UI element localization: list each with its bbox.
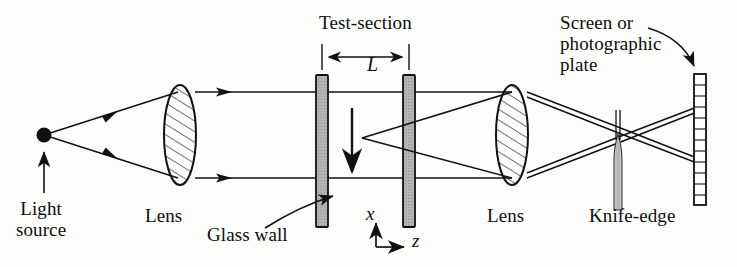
glass-wall-left <box>316 75 328 227</box>
lens-right <box>496 85 528 185</box>
source-ray-arrowheads <box>102 111 118 159</box>
collimated-beam-arrowheads <box>216 87 232 182</box>
knife-edge <box>614 110 622 210</box>
source-cone-rays <box>44 92 178 178</box>
axis-indicator <box>376 223 404 247</box>
light-source-point <box>37 128 52 143</box>
screen-plate <box>694 74 706 205</box>
label-test-section: Test-section <box>319 12 412 33</box>
label-lens-left: Lens <box>145 205 182 226</box>
label-axis-x: x <box>366 203 375 224</box>
label-lens-right: Lens <box>487 205 524 226</box>
label-axis-z: z <box>412 230 420 251</box>
test-section-dimension <box>322 44 409 70</box>
label-length-L: L <box>367 54 378 75</box>
label-screen-plate: Screen or photographic plate <box>560 12 661 75</box>
lens-left <box>164 85 196 185</box>
schlieren-system-figure: Light source Lens Glass wall Test-sectio… <box>0 0 737 267</box>
label-light-source: Light source <box>16 198 66 240</box>
deflected-rays <box>362 92 512 178</box>
label-glass-wall: Glass wall <box>207 224 288 245</box>
converging-rays <box>527 92 697 178</box>
label-knife-edge: Knife-edge <box>589 205 675 226</box>
